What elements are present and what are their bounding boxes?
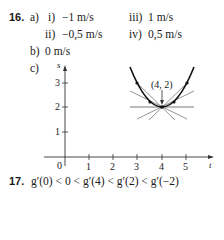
x-tick-2: 2: [110, 161, 115, 172]
x-tick-1: 1: [86, 161, 91, 172]
x-tick-3: 3: [134, 161, 139, 172]
x-tick-4: 4: [159, 161, 164, 172]
y-tick-1: 1: [55, 126, 60, 137]
x-axis-label: t: [209, 160, 212, 170]
vertex-annotation: (4, 2): [151, 79, 173, 90]
x-tick-5: 5: [183, 161, 188, 172]
y-tick-3: 3: [55, 77, 60, 88]
problem-17-text: g′(0) < 0 < g′(4) < g′(2) < g′(−2): [31, 175, 179, 187]
problem-17-number: 17.: [9, 175, 24, 187]
y-tick-2: 2: [55, 101, 60, 112]
y-axis-label: s: [57, 60, 61, 70]
x-tick-0: 0: [57, 160, 62, 171]
